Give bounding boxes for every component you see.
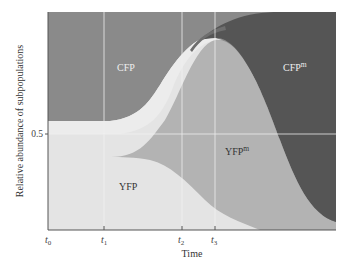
x-tick-label-t2: t2 [178, 234, 185, 247]
y-axis-label: Relative abundance of subpopulations [14, 45, 25, 198]
x-tick-label-t0: t0 [45, 234, 52, 247]
x-tick-label-t3: t3 [211, 234, 218, 247]
label-yfp: YFP [119, 181, 138, 192]
label-cfp: CFP [117, 62, 135, 73]
x-axis-label: Time [182, 248, 203, 259]
chart: CFP CFPm YFP YFPm Relative abundance of … [0, 0, 352, 272]
y-tick-label-half: 0.5 [31, 129, 43, 139]
x-tick-label-t1: t1 [101, 234, 108, 247]
